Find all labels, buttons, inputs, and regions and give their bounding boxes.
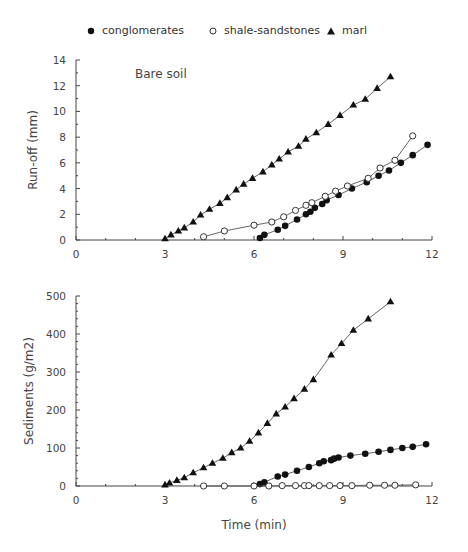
data-point	[316, 483, 322, 489]
series-conglomerates	[257, 441, 430, 488]
data-point	[392, 482, 398, 488]
y-tick-label: 300	[46, 366, 66, 378]
data-point	[200, 483, 206, 489]
data-point	[332, 188, 338, 194]
data-point	[274, 226, 281, 233]
data-point	[200, 464, 208, 471]
data-point	[302, 135, 310, 142]
data-point	[206, 205, 214, 212]
data-point	[261, 232, 268, 239]
data-point	[336, 111, 344, 118]
data-point	[279, 483, 285, 489]
data-point	[274, 473, 281, 480]
x-tick-label: 9	[340, 494, 347, 506]
data-point	[349, 483, 355, 489]
data-point	[237, 444, 245, 451]
data-point	[221, 228, 227, 234]
runoff-chart: 03691202468101214Run-off (mm)Bare soil	[26, 54, 439, 260]
data-point	[364, 315, 372, 322]
y-tick-label: 6	[59, 157, 66, 169]
x-tick-label: 3	[162, 248, 169, 260]
data-point	[324, 120, 332, 127]
data-point	[424, 142, 431, 149]
data-point	[219, 454, 227, 461]
data-point	[306, 483, 312, 489]
y-tick-label: 0	[59, 234, 66, 246]
y-tick-label: 200	[46, 404, 66, 416]
data-point	[313, 129, 321, 136]
data-point	[409, 152, 416, 159]
data-point	[251, 222, 257, 228]
data-point	[373, 84, 381, 91]
data-point	[209, 459, 217, 466]
data-point	[294, 468, 301, 475]
data-point	[381, 482, 387, 488]
sediments-chart: 0369120100200300400500Sediments (g/m2)Ti…	[22, 290, 439, 532]
data-point	[224, 194, 232, 201]
data-point	[240, 180, 248, 187]
data-point	[232, 186, 240, 193]
data-point	[189, 469, 197, 476]
data-point	[337, 483, 343, 489]
data-point	[306, 464, 313, 471]
data-point	[375, 172, 382, 179]
data-point	[266, 483, 272, 489]
series-marl	[161, 73, 394, 242]
data-point	[387, 298, 395, 305]
data-point	[350, 101, 358, 108]
data-point	[377, 165, 383, 171]
x-tick-label: 12	[425, 248, 438, 260]
data-point	[284, 148, 292, 155]
data-point	[327, 483, 333, 489]
data-point	[197, 211, 205, 218]
series-shale-sandstones	[200, 133, 415, 240]
data-point	[309, 200, 315, 206]
y-tick-label: 100	[46, 442, 66, 454]
data-point	[398, 160, 405, 167]
x-tick-label: 6	[251, 248, 258, 260]
data-point	[216, 199, 224, 206]
data-point	[259, 168, 267, 175]
y-tick-label: 4	[59, 183, 66, 195]
data-point	[282, 471, 289, 478]
data-point	[344, 183, 350, 189]
y-tick-label: 2	[59, 208, 66, 220]
y-tick-label: 12	[53, 80, 66, 92]
x-tick-label: 12	[425, 494, 438, 506]
data-point	[350, 326, 358, 333]
y-tick-label: 8	[59, 131, 66, 143]
data-point	[322, 193, 328, 199]
y-tick-label: 500	[46, 290, 66, 302]
y-axis-label: Run-off (mm)	[26, 110, 40, 190]
y-tick-label: 10	[53, 105, 66, 117]
data-point	[167, 231, 175, 238]
data-point	[294, 216, 301, 223]
series-shale-sandstones	[200, 482, 418, 489]
data-point	[180, 224, 188, 231]
data-point	[180, 474, 188, 481]
data-point	[200, 234, 206, 240]
data-point	[365, 175, 371, 181]
data-point	[303, 202, 309, 208]
data-point	[228, 449, 236, 456]
data-point	[282, 223, 289, 230]
data-point	[292, 483, 298, 489]
y-tick-label: 400	[46, 328, 66, 340]
data-point	[399, 445, 406, 452]
data-point	[423, 441, 430, 448]
data-point	[320, 458, 327, 465]
data-point	[269, 219, 275, 225]
data-point	[275, 155, 283, 162]
y-tick-label: 14	[53, 54, 67, 66]
x-tick-label: 6	[251, 494, 258, 506]
x-tick-label: 9	[340, 248, 347, 260]
data-point	[387, 73, 395, 80]
data-point	[281, 214, 287, 220]
data-point	[251, 483, 257, 489]
data-point	[249, 174, 257, 181]
data-point	[335, 454, 342, 461]
series-marl	[161, 298, 394, 488]
data-point	[375, 449, 382, 456]
data-point	[268, 161, 276, 168]
data-point	[161, 235, 169, 242]
